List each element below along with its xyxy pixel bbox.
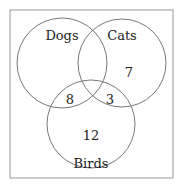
birds-only-value: 12 <box>83 128 100 143</box>
dogs-label: Dogs <box>45 28 78 43</box>
birds-circle <box>47 80 135 168</box>
venn-diagram: Dogs Cats Birds 7 8 3 12 <box>0 0 181 188</box>
cats-only-value: 7 <box>125 65 133 80</box>
diagram-border <box>10 10 173 178</box>
dogs-birds-value: 8 <box>66 92 74 107</box>
cats-label: Cats <box>107 28 137 43</box>
cats-birds-value: 3 <box>106 92 114 107</box>
birds-label: Birds <box>74 156 109 171</box>
